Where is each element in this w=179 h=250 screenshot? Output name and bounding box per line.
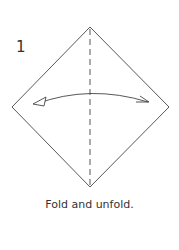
step-caption: Fold and unfold. [0, 198, 179, 211]
arrow-head-left-icon [33, 97, 46, 106]
fold-diagram [0, 0, 179, 250]
fold-unfold-arrow [36, 93, 148, 104]
paper-square [12, 27, 169, 187]
